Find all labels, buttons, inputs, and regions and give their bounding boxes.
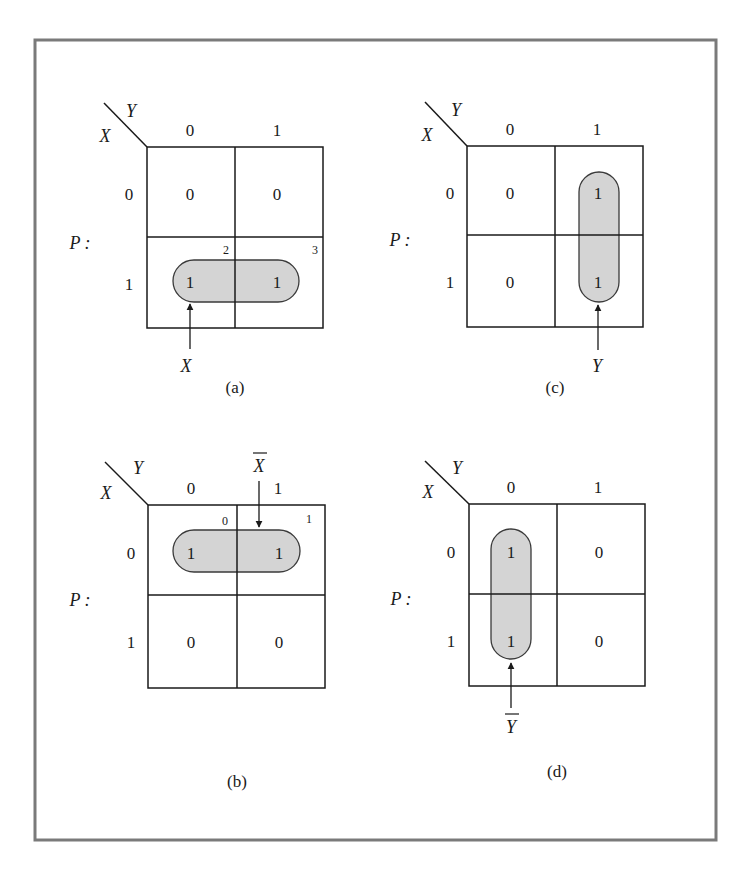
col-header-0: 0 bbox=[506, 120, 515, 139]
caption-b: (b) bbox=[227, 772, 247, 791]
cell-r0c0: 0 bbox=[506, 184, 515, 203]
cell-r1c0: 1 bbox=[186, 273, 195, 292]
col-header-0: 0 bbox=[187, 479, 196, 498]
function-label: P : bbox=[389, 589, 411, 609]
caption-a: (a) bbox=[226, 378, 245, 397]
cell-r1c0: 0 bbox=[506, 273, 515, 292]
row-header-1: 1 bbox=[127, 633, 136, 652]
term-label: Y bbox=[506, 717, 518, 737]
cell-r1c1: 1 bbox=[594, 273, 603, 292]
col-header-1: 1 bbox=[273, 121, 282, 140]
col-header-0: 0 bbox=[507, 478, 516, 497]
row-header-0: 0 bbox=[127, 544, 136, 563]
kmap-figure: Y X 0 1 0 1 P : 0 0 1 1 2 3 X (a) Y X 0 … bbox=[0, 0, 750, 888]
col-variable-label: Y bbox=[452, 458, 464, 478]
row-header-1: 1 bbox=[447, 632, 456, 651]
cell-r1c0: 0 bbox=[187, 633, 196, 652]
cell-r0c0: 1 bbox=[187, 544, 196, 563]
cell-index-2: 2 bbox=[223, 243, 229, 257]
cell-index-0: 0 bbox=[222, 514, 228, 528]
cell-r0c1: 1 bbox=[275, 544, 284, 563]
cell-r0c1: 1 bbox=[594, 184, 603, 203]
caption-d: (d) bbox=[547, 762, 567, 781]
cell-r1c0: 1 bbox=[507, 632, 516, 651]
term-label: Y bbox=[592, 356, 604, 376]
cell-r1c1: 0 bbox=[275, 633, 284, 652]
cell-r0c1: 0 bbox=[273, 185, 282, 204]
col-variable-label: Y bbox=[451, 100, 463, 120]
row-variable-label: X bbox=[422, 482, 435, 502]
kmap-b: Y X 0 1 0 1 P : X 1 1 0 0 0 1 (b) bbox=[68, 453, 325, 791]
row-header-0: 0 bbox=[125, 185, 134, 204]
row-header-1: 1 bbox=[125, 275, 134, 294]
row-variable-label: X bbox=[100, 483, 113, 503]
col-header-1: 1 bbox=[274, 479, 283, 498]
row-header-0: 0 bbox=[446, 184, 455, 203]
function-label: P : bbox=[68, 590, 90, 610]
row-header-1: 1 bbox=[446, 273, 455, 292]
col-header-1: 1 bbox=[594, 478, 603, 497]
function-label: P : bbox=[68, 233, 90, 253]
term-label: X bbox=[253, 456, 266, 476]
col-variable-label: Y bbox=[126, 101, 138, 121]
col-variable-label: Y bbox=[133, 458, 145, 478]
caption-c: (c) bbox=[546, 378, 565, 397]
cell-r1c1: 1 bbox=[273, 273, 282, 292]
cell-r0c0: 1 bbox=[507, 543, 516, 562]
col-header-0: 0 bbox=[186, 121, 195, 140]
function-label: P : bbox=[388, 230, 410, 250]
row-variable-label: X bbox=[99, 126, 112, 146]
col-header-1: 1 bbox=[593, 120, 602, 139]
term-label: X bbox=[180, 356, 193, 376]
kmap-c: Y X 0 1 0 1 P : 0 1 0 1 Y (c) bbox=[388, 100, 643, 397]
cell-index-1: 1 bbox=[306, 512, 312, 526]
cell-index-3: 3 bbox=[312, 243, 318, 257]
kmap-d: Y X 0 1 0 1 P : 1 0 1 0 Y (d) bbox=[389, 458, 645, 781]
kmap-a: Y X 0 1 0 1 P : 0 0 1 1 2 3 X (a) bbox=[68, 101, 323, 397]
cell-r0c0: 0 bbox=[186, 185, 195, 204]
figure-frame bbox=[35, 40, 716, 840]
row-header-0: 0 bbox=[447, 543, 456, 562]
cell-r0c1: 0 bbox=[595, 543, 604, 562]
row-variable-label: X bbox=[421, 125, 434, 145]
cell-r1c1: 0 bbox=[595, 632, 604, 651]
